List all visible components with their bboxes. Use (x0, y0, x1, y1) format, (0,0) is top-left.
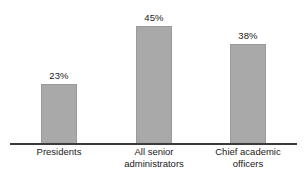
bar-value-label-1: 45% (144, 12, 163, 23)
bar-group-chief-academic-officers: 38% (202, 0, 294, 144)
category-label-0: Presidents (9, 146, 109, 158)
category-label-1-line-0: All senior (104, 146, 204, 158)
category-label-1: All senior administrators (104, 146, 204, 169)
bar-group-all-senior-administrators: 45% (108, 0, 200, 144)
category-label-0-line-0: Presidents (9, 146, 109, 158)
bar-chart: 23% 45% 38% Presidents All senior admini… (0, 0, 307, 181)
category-label-2-line-1: officers (198, 158, 298, 170)
category-labels: Presidents All senior administrators Chi… (0, 146, 307, 181)
category-label-2-line-0: Chief academic (198, 146, 298, 158)
x-axis-line (10, 143, 297, 145)
bar-rect-0[interactable] (41, 84, 77, 144)
plot-area: 23% 45% 38% (0, 0, 307, 145)
bar-group-presidents: 23% (13, 0, 105, 144)
category-label-2: Chief academic officers (198, 146, 298, 169)
bar-value-label-0: 23% (49, 70, 68, 81)
bars-layer: 23% 45% 38% (0, 0, 307, 144)
bar-value-label-2: 38% (238, 30, 257, 41)
bar-rect-2[interactable] (230, 44, 266, 144)
bar-rect-1[interactable] (136, 26, 172, 144)
category-label-1-line-1: administrators (104, 158, 204, 170)
